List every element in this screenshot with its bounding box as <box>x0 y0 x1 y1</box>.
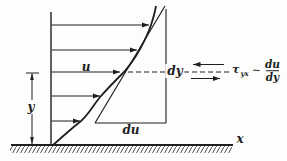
velocity-label: u <box>82 61 91 73</box>
tangent-line <box>95 6 165 123</box>
y-dimension-arrowhead-down <box>30 137 34 144</box>
y-axis-label: y <box>26 100 37 114</box>
y-dimension-arrowhead-up <box>30 73 34 80</box>
tau-subscript: yx <box>240 70 248 79</box>
velocity-arrows <box>52 25 150 121</box>
x-axis-label: x <box>236 133 243 145</box>
du-label: du <box>122 124 139 136</box>
velocity-profile-curve <box>52 6 156 146</box>
shear-stress-expression: τyx ∼ du dy <box>232 59 281 83</box>
tau-symbol: τyx <box>232 63 249 78</box>
fraction-denominator: dy <box>266 70 279 83</box>
proportional-symbol: ∼ <box>252 65 261 78</box>
wall-hatching <box>10 146 232 153</box>
du-dy-fraction: du dy <box>264 59 281 83</box>
velocity-profile-diagram: u y x du dy τyx ∼ du dy <box>0 0 287 161</box>
dy-label: dy <box>165 64 184 78</box>
tau-glyph: τ <box>232 63 239 76</box>
fraction-numerator: du <box>264 59 281 70</box>
